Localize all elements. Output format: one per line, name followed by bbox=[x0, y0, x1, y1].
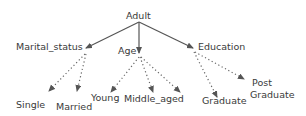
node-adult: Adult bbox=[126, 10, 151, 21]
edge-age-middle bbox=[140, 57, 153, 92]
edge-education-postgraduate bbox=[195, 52, 244, 79]
node-education: Education bbox=[198, 41, 245, 52]
edge-age-young bbox=[111, 57, 139, 92]
node-age: Age bbox=[118, 45, 137, 56]
leaf-post-graduate-line2: Graduate bbox=[250, 89, 295, 100]
leaf-single: Single bbox=[16, 99, 45, 110]
leaf-post-graduate-line1: Post bbox=[252, 77, 272, 88]
edge-marital-single bbox=[49, 54, 85, 91]
edge-age-old bbox=[141, 57, 180, 92]
dotted-edges bbox=[49, 52, 244, 97]
edge-education-graduate bbox=[194, 52, 217, 97]
node-marital-status: Marital_status bbox=[16, 41, 83, 52]
edge-marital-married bbox=[77, 54, 86, 91]
leaf-married: Married bbox=[56, 101, 92, 112]
leaf-middle-aged: Middle_aged bbox=[124, 93, 184, 104]
leaf-graduate: Graduate bbox=[202, 95, 247, 106]
edge-adult-education bbox=[139, 22, 193, 48]
solid-edges bbox=[86, 22, 193, 53]
leaf-young: Young bbox=[90, 92, 119, 103]
hierarchy-diagram: Adult Marital_status Age Education Singl… bbox=[0, 0, 306, 116]
